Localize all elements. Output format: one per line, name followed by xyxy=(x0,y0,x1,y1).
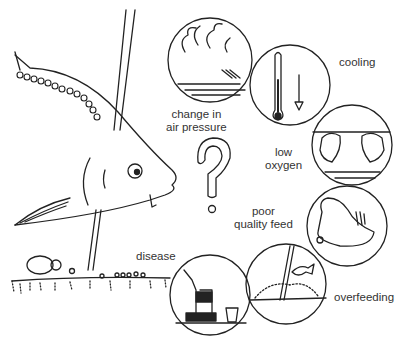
question-mark-icon xyxy=(198,138,230,213)
label-low-oxygen: low oxygen xyxy=(265,146,302,172)
label-disease: disease xyxy=(136,250,176,263)
reed-stem xyxy=(88,10,135,270)
label-poor-feed-line1: poor xyxy=(234,205,293,218)
label-air-pressure-line1: change in xyxy=(166,108,227,121)
label-poor-feed: poor quality feed xyxy=(234,205,293,231)
microscope-circle xyxy=(170,255,250,335)
fish-illustration xyxy=(15,52,176,225)
label-air-pressure: change in air pressure xyxy=(166,108,227,134)
label-poor-feed-line2: quality feed xyxy=(234,218,293,231)
label-overfeeding: overfeeding xyxy=(334,291,394,304)
label-low-oxygen-line1: low xyxy=(265,146,302,159)
feed-sack-circle xyxy=(307,186,387,266)
label-low-oxygen-line2: oxygen xyxy=(265,159,302,172)
thermometer-circle xyxy=(250,45,330,125)
low-oxygen-circle xyxy=(312,105,392,185)
label-cooling: cooling xyxy=(339,56,375,69)
overfeeding-circle xyxy=(246,244,326,324)
weather-circle xyxy=(168,18,252,102)
label-air-pressure-line2: air pressure xyxy=(166,121,227,134)
